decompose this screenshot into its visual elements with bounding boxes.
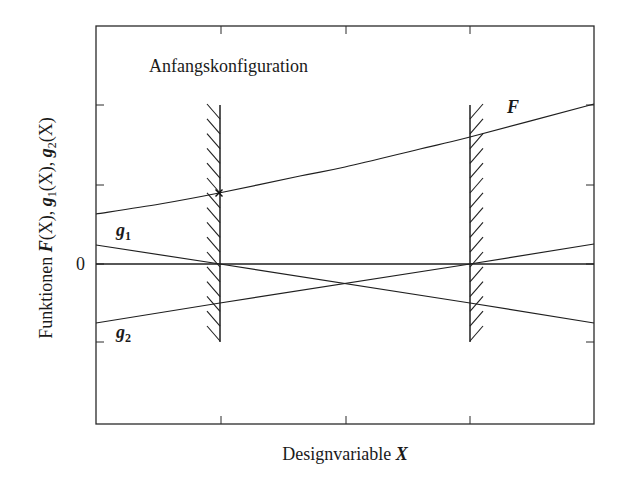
hatch-mark: [207, 163, 220, 178]
hatch-mark: [470, 311, 483, 326]
hatch-mark: [470, 237, 483, 252]
hatch-mark: [207, 208, 220, 223]
x-axis-label-text: Designvariable: [282, 444, 395, 464]
frame-rect: [96, 26, 594, 424]
g2-subscript: 2: [125, 331, 131, 345]
g2-base: g: [115, 322, 125, 342]
x-axis-label: Designvariable X: [282, 444, 408, 464]
hatch-mark: [470, 222, 483, 237]
hatch-mark: [470, 267, 483, 282]
series-label-g1: g1: [115, 220, 131, 243]
optimization-constraint-diagram: Anfangskonfiguration F g1 g2 0 Designvar…: [0, 0, 622, 484]
series-label-F: F: [506, 97, 519, 117]
y-label-part: (X),: [36, 157, 57, 191]
hatch-mark: [207, 282, 220, 297]
function-curves: [96, 104, 594, 323]
y-axis-label: Funktionen F(X), g1(X), g2(X): [36, 117, 59, 339]
x-axis-label-variable: X: [395, 444, 409, 464]
hatch-mark: [207, 222, 220, 237]
y-label-part: (X): [36, 117, 57, 142]
hatch-mark: [207, 104, 220, 119]
hatch-mark: [470, 282, 483, 297]
g1-base: g: [115, 220, 125, 240]
y-label-g1: g: [36, 197, 56, 207]
curve-F: [96, 104, 594, 214]
hatch-mark: [470, 208, 483, 223]
annotation-anfangskonfiguration: Anfangskonfiguration: [149, 56, 308, 76]
hatch-mark: [470, 148, 483, 163]
hatch-mark: [470, 193, 483, 208]
hatch-mark: [470, 104, 483, 119]
hatch-mark: [470, 252, 483, 267]
plot-frame: [96, 26, 594, 424]
constraint-boundaries: [207, 104, 483, 342]
hatch-mark: [207, 252, 220, 267]
y-label-part: (X),: [36, 206, 57, 240]
y-axis-label-text: Funktionen: [36, 252, 56, 339]
y-label-g2: g: [36, 148, 56, 158]
y-tick-label-zero: 0: [76, 254, 85, 274]
hatch-mark: [207, 311, 220, 326]
g1-subscript: 1: [125, 229, 131, 243]
hatch-mark: [207, 326, 220, 341]
hatch-mark: [470, 326, 483, 341]
hatch-mark: [207, 237, 220, 252]
right-constraint-boundary: [470, 104, 483, 342]
hatch-mark: [207, 134, 220, 149]
hatch-mark: [470, 178, 483, 193]
hatch-mark: [470, 119, 483, 134]
left-constraint-boundary: [207, 104, 220, 342]
y-label-F: F: [36, 240, 56, 253]
hatch-mark: [207, 178, 220, 193]
hatch-mark: [470, 163, 483, 178]
axis-ticks: [96, 26, 594, 424]
hatch-mark: [207, 148, 220, 163]
hatch-mark: [207, 267, 220, 282]
series-label-g2: g2: [115, 322, 131, 345]
hatch-mark: [207, 119, 220, 134]
